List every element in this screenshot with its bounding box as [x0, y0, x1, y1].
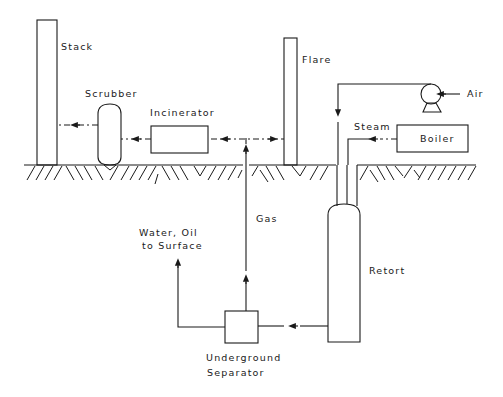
label-steam: Steam [354, 120, 391, 133]
label-stack: Stack [61, 40, 93, 53]
process-diagram [0, 0, 503, 397]
underground-separator [225, 311, 258, 343]
flare [284, 38, 297, 165]
label-water-oil-2: to Surface [142, 239, 203, 252]
label-incinerator: Incinerator [150, 106, 215, 119]
label-gas: Gas [256, 212, 278, 225]
label-flare: Flare [302, 53, 331, 66]
label-boiler: Boiler [420, 132, 455, 145]
label-air: Air [467, 87, 484, 100]
well-pipe [337, 165, 357, 206]
scrubber [98, 104, 121, 165]
label-separator-1: Underground [206, 351, 281, 364]
label-separator-2: Separator [207, 366, 265, 379]
retort [328, 204, 360, 342]
steam-flow [348, 139, 397, 165]
stack [37, 20, 57, 165]
label-water-oil-1: Water, Oil [139, 226, 198, 239]
ground-hatching [27, 166, 476, 184]
label-scrubber: Scrubber [85, 87, 138, 100]
incinerator [151, 126, 208, 153]
air-compressor [421, 84, 441, 112]
label-retort: Retort [369, 264, 405, 277]
water-oil-flow [178, 262, 225, 327]
